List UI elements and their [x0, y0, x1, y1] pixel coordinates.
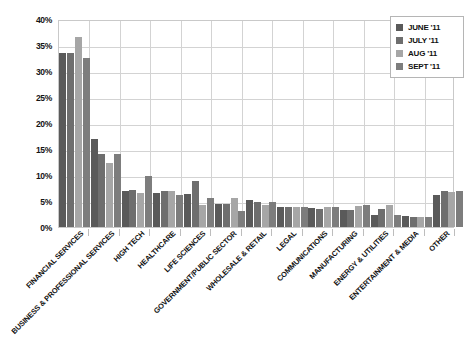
x-axis-category-label: WHOLESALE & RETAIL [204, 229, 268, 293]
legend-item-label: SEPT '11 [408, 62, 440, 71]
bar [184, 194, 191, 227]
bar [238, 211, 245, 227]
bar [59, 53, 66, 227]
x-axis-category-label: OTHER [427, 229, 451, 253]
bar [161, 191, 168, 227]
bar [285, 207, 292, 227]
bar [425, 217, 432, 227]
legend-item[interactable]: JUNE '11 [396, 21, 459, 34]
bar [308, 208, 315, 227]
bar-group [184, 21, 215, 227]
legend-item-label: AUG '11 [408, 49, 437, 58]
bar [192, 181, 199, 227]
bar-group [308, 21, 339, 227]
bar [75, 37, 82, 227]
y-axis-tick-label: 25% [22, 93, 52, 103]
bar-group [277, 21, 308, 227]
y-axis-tick-label: 35% [22, 41, 52, 51]
y-axis-tick-label: 40% [22, 15, 52, 25]
bar [269, 202, 276, 227]
legend-item[interactable]: JULY '11 [396, 34, 459, 47]
x-axis-tickmark [271, 229, 272, 236]
x-axis-tickmark [210, 229, 211, 236]
y-axis-tick-label: 15% [22, 145, 52, 155]
bar [417, 217, 424, 227]
legend-swatch-icon [396, 37, 403, 44]
bar [316, 209, 323, 227]
bar [176, 195, 183, 227]
x-axis-category-labels: FINANCIAL SERVICESBUSINESS & PROFESSIONA… [58, 229, 454, 347]
bar [433, 195, 440, 227]
x-axis-tickmark [180, 229, 181, 236]
bar [410, 217, 417, 227]
bar [371, 215, 378, 227]
bar [456, 191, 463, 227]
x-axis-tickmark [363, 229, 364, 236]
x-axis-tickmark [332, 229, 333, 236]
bar [254, 202, 261, 227]
bar [363, 205, 370, 227]
bar [91, 139, 98, 227]
bar [332, 207, 339, 227]
bar [262, 205, 269, 227]
legend-item[interactable]: AUG '11 [396, 47, 459, 60]
x-axis-category-label: LEGAL [275, 229, 299, 253]
bar [448, 192, 455, 227]
bar [215, 204, 222, 227]
y-axis-tick-label: 20% [22, 119, 52, 129]
legend-swatch-icon [396, 24, 403, 31]
bar [129, 190, 136, 227]
x-axis-tickmark [393, 229, 394, 236]
x-axis-tickmark [302, 229, 303, 236]
x-axis-category-label: FINANCIAL SERVICES [24, 229, 85, 290]
bar [293, 207, 300, 227]
legend: JUNE '11JULY '11AUG '11SEPT '11 [390, 16, 464, 78]
y-axis-tick-label: 30% [22, 67, 52, 77]
legend-swatch-icon [396, 50, 403, 57]
x-axis-tickmark [88, 229, 89, 236]
bar [168, 191, 175, 227]
bar [98, 154, 105, 227]
bar [355, 206, 362, 227]
bar [340, 210, 347, 227]
bar-group [90, 21, 121, 227]
bar [324, 207, 331, 227]
x-axis-tickmark [241, 229, 242, 236]
bar [114, 154, 121, 227]
bar [83, 58, 90, 227]
y-axis-tick-label: 10% [22, 171, 52, 181]
bar [402, 216, 409, 227]
bar-group [339, 21, 370, 227]
bar [137, 193, 144, 227]
legend-item[interactable]: SEPT '11 [396, 60, 459, 73]
bar [378, 209, 385, 227]
bar-group [152, 21, 183, 227]
x-axis-tickmark [424, 229, 425, 236]
bar-chart: 0%5%10%15%20%25%30%35%40% JUNE '11JULY '… [0, 0, 470, 348]
bar [199, 205, 206, 227]
bar [122, 191, 129, 227]
bar [441, 191, 448, 227]
bar [277, 207, 284, 227]
bar [386, 205, 393, 227]
bar [231, 198, 238, 227]
bar [301, 207, 308, 227]
bar-group [215, 21, 246, 227]
bar [394, 215, 401, 227]
x-axis-tickmark [454, 229, 455, 236]
y-axis-tick-label: 0% [22, 223, 52, 233]
bar-group [246, 21, 277, 227]
legend-item-label: JULY '11 [408, 36, 439, 45]
bar [207, 198, 214, 227]
bar [246, 200, 253, 227]
bar [223, 204, 230, 227]
legend-item-label: JUNE '11 [408, 23, 440, 32]
y-axis-tick-label: 5% [22, 197, 52, 207]
x-axis-tickmark [149, 229, 150, 236]
bar [67, 53, 74, 227]
legend-swatch-icon [396, 63, 403, 70]
bar [153, 193, 160, 227]
x-axis-tickmark [119, 229, 120, 236]
bar [106, 163, 113, 227]
x-axis-category-label: ENERGY & UTILITIES [332, 229, 391, 288]
